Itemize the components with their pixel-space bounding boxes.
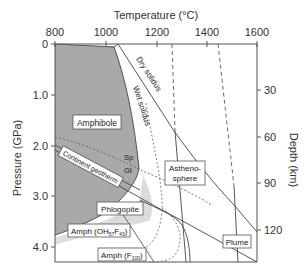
asthenosphere-adiabat-solid <box>175 131 186 262</box>
plume-adiabat-dashed <box>218 44 234 186</box>
y2-tick-label: 60 <box>264 131 276 143</box>
y-axis-title: Pressure (GPa) <box>11 120 23 196</box>
y2-tick-label: 120 <box>264 224 282 236</box>
amphibole-label: Amphibole <box>77 118 117 128</box>
amph-f-prefix: Amph (F <box>101 251 132 260</box>
amph-f-suffix: ) <box>140 251 143 260</box>
phase-diagram: Temperature (°C) Pressure (GPa) Depth (k… <box>0 0 308 274</box>
x-tick-label: 1400 <box>195 26 219 38</box>
x-tick-label: 1000 <box>94 26 118 38</box>
dotted-arc-outer <box>150 208 180 262</box>
y-tick-label: 4.0 <box>33 241 48 253</box>
amph-oh-prefix: Amph (OH <box>71 227 109 236</box>
wet-solidus-label: Wet solidus <box>131 85 152 127</box>
asthenosphere-adiabat-dashed <box>172 44 175 131</box>
x-tick-label: 800 <box>46 26 64 38</box>
y2-axis-title: Depth (km) <box>288 133 300 187</box>
plume-label: Plume <box>226 238 249 247</box>
y2-tick-label: 30 <box>264 84 276 96</box>
y-tick-label: 1.0 <box>33 89 48 101</box>
y-tick-label: 2.0 <box>33 140 48 152</box>
amph-f-sub: 100 <box>132 255 141 261</box>
y2-ticks <box>257 90 261 230</box>
y-tick-label: 0 <box>42 38 48 50</box>
sp-label: Sp <box>124 153 133 162</box>
asthenosphere-label-line1: Astheno- <box>169 164 201 173</box>
gt-label: Gt <box>124 166 133 175</box>
x-axis-title: Temperature (°C) <box>114 9 198 21</box>
phlogopite-label: Phlogopite <box>101 205 139 214</box>
y-tick-label: 3.0 <box>33 190 48 202</box>
asthenosphere-label-line2: sphere <box>173 174 198 183</box>
x-tick-label: 1600 <box>245 26 269 38</box>
y-ticks <box>51 44 55 247</box>
amph-oh-suffix: ) <box>125 227 128 236</box>
x-tick-label: 1200 <box>145 26 169 38</box>
y2-tick-label: 90 <box>264 177 276 189</box>
